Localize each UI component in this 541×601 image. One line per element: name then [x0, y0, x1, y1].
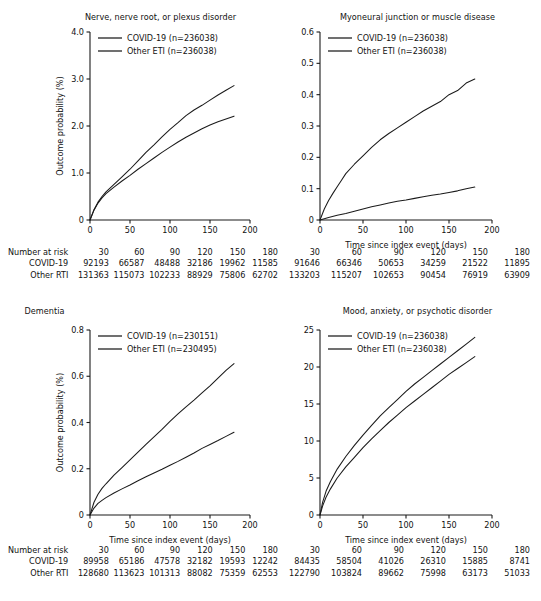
- risk-cell: 89958: [73, 556, 109, 567]
- y-tick-label: 0.5: [301, 58, 314, 68]
- risk-cell: 120: [180, 247, 213, 258]
- risk-cell: 60: [320, 247, 362, 258]
- risk-cell: 120: [404, 545, 446, 556]
- plot-area: 00.20.40.60.8050100150200Outcome probabi…: [0, 316, 278, 541]
- risk-cell: 75359: [213, 568, 246, 579]
- y-tick-label: 0.1: [301, 184, 314, 194]
- risk-cell: 150: [213, 247, 246, 258]
- x-tick-label: 100: [398, 225, 413, 235]
- legend-label: COVID-19 (n=236038): [127, 33, 218, 43]
- risk-cell: 48488: [144, 258, 180, 269]
- panel-title: Dementia: [0, 306, 157, 316]
- plot-area: 01.02.03.04.0050100150200Outcome probabi…: [0, 20, 278, 250]
- x-tick-label: 200: [484, 225, 499, 235]
- risk-cell: 30: [278, 545, 320, 556]
- risk-cell: 63173: [446, 568, 488, 579]
- x-tick-label: 50: [358, 520, 368, 530]
- risk-cell: 122790: [278, 568, 320, 579]
- risk-cell: 103824: [320, 568, 362, 579]
- legend-label: Other ETI (n=236038): [357, 46, 447, 56]
- risk-cell: 91646: [278, 258, 320, 269]
- risk-row-times: Number at risk306090120150180: [8, 247, 278, 258]
- plot-area: 00.10.20.30.40.50.6050100150200Time sinc…: [278, 20, 541, 250]
- risk-row-header: COVID-19: [8, 258, 73, 269]
- risk-row-covid: COVID-19921936658748488321861996211585: [8, 258, 278, 269]
- risk-cell: 102653: [362, 270, 404, 281]
- x-tick-label: 0: [87, 520, 92, 530]
- x-tick-label: 150: [441, 520, 456, 530]
- risk-cell: 128680: [73, 568, 109, 579]
- y-tick-label: 0.8: [71, 325, 84, 335]
- risk-cell: 51033: [488, 568, 530, 579]
- risk-row-header: Number at risk: [8, 247, 73, 258]
- x-tick-label: 0: [317, 225, 322, 235]
- risk-cell: 92193: [73, 258, 109, 269]
- y-tick-label: 5: [309, 473, 314, 483]
- risk-table: Number at risk306090120150180COVID-19921…: [8, 247, 278, 281]
- x-tick-label: 100: [162, 225, 177, 235]
- risk-row-other: Other RTI1313631150731022338892975806627…: [8, 270, 278, 281]
- risk-cell: 90: [362, 247, 404, 258]
- risk-cell: 76919: [446, 270, 488, 281]
- risk-cell: 180: [488, 247, 530, 258]
- risk-table: Number at risk306090120150180COVID-19899…: [8, 545, 278, 579]
- y-tick-label: 0.2: [71, 464, 84, 474]
- risk-table: 3060901201501809164666346506533425921522…: [273, 247, 530, 281]
- y-tick-label: 0.3: [301, 121, 314, 131]
- y-tick-label: 4.0: [71, 27, 84, 37]
- y-tick-label: 10: [304, 436, 314, 446]
- risk-cell: 65186: [109, 556, 145, 567]
- panel-mood-anxiety-or-psychotic-disorder: Mood, anxiety, or psychotic disorder 051…: [278, 298, 541, 601]
- panel-myoneural-junction-or-muscle-disease: Myoneural junction or muscle disease 00.…: [278, 0, 541, 300]
- risk-row-header: Other RTI: [8, 270, 73, 281]
- risk-cell: 63909: [488, 270, 530, 281]
- x-tick-label: 150: [202, 225, 217, 235]
- series-line-covid19: [320, 337, 475, 515]
- risk-row-times: Number at risk306090120150180: [8, 545, 278, 556]
- y-tick-label: 20: [304, 362, 314, 372]
- x-axis-title: Time since index event (days): [344, 535, 467, 545]
- risk-cell: 75998: [404, 568, 446, 579]
- risk-cell: 60: [320, 545, 362, 556]
- risk-cell: 90: [144, 247, 180, 258]
- series-line-other-eti: [90, 116, 234, 220]
- x-tick-label: 0: [87, 225, 92, 235]
- y-tick-label: 15: [304, 399, 314, 409]
- risk-cell: 11895: [488, 258, 530, 269]
- risk-cell: 30: [73, 545, 109, 556]
- x-tick-label: 150: [202, 520, 217, 530]
- risk-cell: 131363: [73, 270, 109, 281]
- risk-table: 3060901201501808443558504410262631015885…: [273, 545, 530, 579]
- legend-label: Other ETI (n=230495): [127, 344, 217, 354]
- x-tick-label: 200: [242, 225, 257, 235]
- risk-cell: 32186: [180, 258, 213, 269]
- risk-cell: 32182: [180, 556, 213, 567]
- panel-dementia: Dementia 00.20.40.60.8050100150200Outcom…: [0, 298, 278, 601]
- panel-nerve-nerve-root-or-plexus-disorder: Nerve, nerve root, or plexus disorder 01…: [0, 0, 278, 300]
- x-tick-label: 50: [125, 225, 135, 235]
- risk-cell: 47578: [144, 556, 180, 567]
- risk-cell: 150: [213, 545, 246, 556]
- risk-cell: 150: [446, 247, 488, 258]
- x-axis-title: Time since index event (days): [108, 535, 231, 545]
- legend-label: COVID-19 (n=236038): [357, 33, 448, 43]
- y-tick-label: 0.2: [301, 152, 314, 162]
- plot-area: 0510152025050100150200Time since index e…: [278, 316, 541, 541]
- risk-row-other: 12279010382489662759986317351033: [273, 568, 530, 579]
- risk-cell: 41026: [362, 556, 404, 567]
- risk-row-header: COVID-19: [8, 556, 73, 567]
- y-tick-label: 0.6: [71, 371, 84, 381]
- risk-cell: 21522: [446, 258, 488, 269]
- x-tick-label: 100: [162, 520, 177, 530]
- risk-cell: 50653: [362, 258, 404, 269]
- risk-cell: 15885: [446, 556, 488, 567]
- risk-cell: 180: [488, 545, 530, 556]
- risk-cell: 90454: [404, 270, 446, 281]
- risk-cell: 102233: [144, 270, 180, 281]
- risk-cell: 58504: [320, 556, 362, 567]
- legend-label: COVID-19 (n=230151): [127, 331, 218, 341]
- risk-cell: 101313: [144, 568, 180, 579]
- risk-cell: 34259: [404, 258, 446, 269]
- risk-cell: 8741: [488, 556, 530, 567]
- risk-row-times: 306090120150180: [273, 247, 530, 258]
